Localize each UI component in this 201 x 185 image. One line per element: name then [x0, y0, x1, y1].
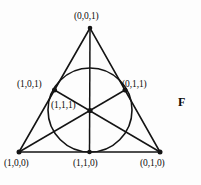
- cevian-top-to-bottom: [90, 28, 91, 152]
- vertex-dot-top: [88, 26, 93, 31]
- label-left-edge-midpoint: (1,0,1): [17, 80, 42, 90]
- label-top-vertex: (0,0,1): [74, 12, 99, 22]
- figure-container: (0,0,1) (1,0,1) (0,1,1) (1,1,1) (1,0,0) …: [0, 0, 201, 185]
- tangency-dot-left-edge: [52, 88, 57, 93]
- label-right-edge-midpoint: (0,1,1): [122, 80, 147, 90]
- label-bottom-left-vertex: (1,0,0): [4, 159, 29, 169]
- tangency-dot-bottom-edge: [87, 150, 92, 155]
- label-bottom-edge-midpoint: (1,1,0): [73, 159, 98, 169]
- label-centroid: (1,1,1): [51, 101, 76, 111]
- vertex-dot-bottom-right: [158, 150, 163, 155]
- triangle-incircle-diagram: [0, 0, 201, 185]
- vertex-dot-bottom-left: [17, 150, 22, 155]
- label-bottom-right-vertex: (0,1,0): [140, 159, 165, 169]
- figure-marker-label: F: [178, 96, 185, 108]
- centroid-dot: [87, 108, 92, 113]
